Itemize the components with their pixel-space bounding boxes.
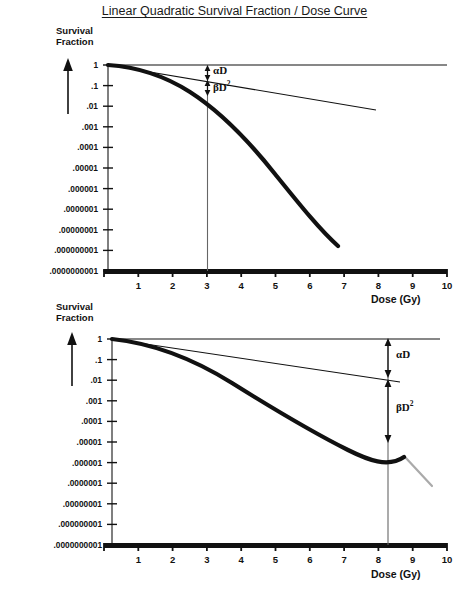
ytick-label-bottom-7: .0000001 <box>0 478 102 488</box>
xtick-label-bottom-8: 8 <box>376 554 381 565</box>
ytick-label-bottom-9: .000000001 <box>0 519 102 529</box>
ytick-label-top-9: .000000001 <box>0 245 98 255</box>
ytick-label-top-6: .000001 <box>0 184 98 194</box>
ytick-label-top-7: .0000001 <box>0 204 98 214</box>
xtick-label-top-3: 3 <box>204 280 209 291</box>
xtick-label-bottom-5: 5 <box>273 554 278 565</box>
ytick-label-bottom-0: 1 <box>0 334 102 344</box>
xtick-label-bottom-6: 6 <box>307 554 312 565</box>
xtick-label-top-2: 2 <box>170 280 175 291</box>
x-axis-title-bottom: Dose (Gy) <box>371 568 421 580</box>
ytick-label-top-0: 1 <box>0 60 98 70</box>
xtick-label-top-6: 6 <box>307 280 312 291</box>
ytick-label-bottom-2: .01 <box>0 375 102 385</box>
xtick-label-bottom-2: 2 <box>170 554 175 565</box>
xtick-label-top-1: 1 <box>136 280 141 291</box>
annotation-beta-d2-top: βD2 <box>213 79 231 93</box>
alpha-beta-arrow-markers-top <box>205 65 211 96</box>
page-title-text: Linear Quadratic Survival Fraction / Dos… <box>102 4 367 18</box>
survival-curve-bottom <box>112 339 404 462</box>
beta-d2-double-arrow-bottom <box>385 379 392 443</box>
ytick-label-top-4: .0001 <box>0 142 98 152</box>
ytick-label-top-2: .01 <box>0 101 98 111</box>
xtick-label-top-4: 4 <box>239 280 244 291</box>
ytick-label-bottom-1: .1 <box>0 355 102 365</box>
xtick-label-top-5: 5 <box>273 280 278 291</box>
ytick-label-top-8: .00000001 <box>0 225 98 235</box>
ytick-label-top-1: .1 <box>0 81 98 91</box>
ytick-label-bottom-6: .000001 <box>0 458 102 468</box>
xtick-label-top-10: 10 <box>442 280 453 291</box>
ytick-label-bottom-3: .001 <box>0 396 102 406</box>
xtick-label-bottom-10: 10 <box>442 554 453 565</box>
xtick-label-bottom-7: 7 <box>341 554 346 565</box>
annotation-beta-d2-bottom: βD2 <box>396 399 414 413</box>
figure-page: Linear Quadratic Survival Fraction / Dos… <box>0 0 469 604</box>
chart-panel-bottom: Survival Fraction <box>0 300 469 600</box>
xtick-label-bottom-1: 1 <box>136 554 141 565</box>
page-title: Linear Quadratic Survival Fraction / Dos… <box>0 4 469 18</box>
xtick-label-bottom-9: 9 <box>410 554 415 565</box>
xtick-label-bottom-3: 3 <box>204 554 209 565</box>
ytick-label-bottom-10: .0000000001 <box>0 540 102 550</box>
annotation-alpha-d-bottom: αD <box>396 348 410 360</box>
ytick-label-bottom-5: .00001 <box>0 437 102 447</box>
ytick-label-top-5: .00001 <box>0 163 98 173</box>
annotation-alpha-d-top: αD <box>213 64 227 76</box>
chart-panel-top: Survival Fraction <box>0 22 469 307</box>
ytick-label-bottom-4: .0001 <box>0 416 102 426</box>
xtick-label-top-7: 7 <box>341 280 346 291</box>
ytick-label-top-10: .0000000001 <box>0 266 98 276</box>
xtick-label-top-8: 8 <box>376 280 381 291</box>
xtick-label-top-9: 9 <box>410 280 415 291</box>
ytick-label-top-3: .001 <box>0 122 98 132</box>
xtick-label-bottom-4: 4 <box>239 554 244 565</box>
faint-extrapolation-segment-bottom <box>405 457 432 486</box>
alpha-d-double-arrow-bottom <box>385 338 392 378</box>
chart-bottom-svg <box>0 300 469 600</box>
ytick-label-bottom-8: .00000001 <box>0 499 102 509</box>
